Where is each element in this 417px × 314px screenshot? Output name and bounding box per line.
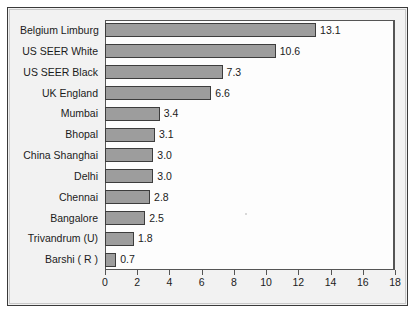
bar xyxy=(105,190,150,204)
bar-track: 2.5 xyxy=(105,207,396,228)
bar-value-label: 1.8 xyxy=(138,233,153,244)
bar-row: UK England6.6 xyxy=(20,82,396,103)
bar-track: 1.8 xyxy=(105,228,396,249)
bar-track: 3.0 xyxy=(105,145,396,166)
x-tick-label: 2 xyxy=(134,277,140,288)
bar-value-label: 7.3 xyxy=(227,67,242,78)
bar xyxy=(105,23,316,37)
bar-track: 3.1 xyxy=(105,124,396,145)
x-tick-label: 14 xyxy=(325,277,337,288)
bar-row: Delhi3.0 xyxy=(20,166,396,187)
bar-track: 2.8 xyxy=(105,187,396,208)
bar-value-label: 3.0 xyxy=(157,150,172,161)
category-label: Trivandrum (U) xyxy=(20,233,105,244)
category-label: Bangalore xyxy=(20,213,105,224)
x-tick xyxy=(234,270,235,275)
bar-value-label: 3.0 xyxy=(157,171,172,182)
x-tick xyxy=(169,270,170,275)
category-label: Barshi ( R ) xyxy=(20,254,105,265)
bar xyxy=(105,148,153,162)
x-tick xyxy=(395,270,396,275)
bar-value-label: 2.8 xyxy=(154,192,169,203)
bar-row: Barshi ( R )0.7 xyxy=(20,249,396,270)
bar-row: US SEER White10.6 xyxy=(20,41,396,62)
category-label: Mumbai xyxy=(20,108,105,119)
category-label: UK England xyxy=(20,88,105,99)
bar xyxy=(105,211,145,225)
bar-track: 7.3 xyxy=(105,62,396,83)
bar-row: Trivandrum (U)1.8 xyxy=(20,228,396,249)
x-axis-ticks: 024681012141618 xyxy=(105,270,395,294)
bar-row: China Shanghai3.0 xyxy=(20,145,396,166)
bar-track: 3.4 xyxy=(105,103,396,124)
x-tick-label: 8 xyxy=(231,277,237,288)
x-tick xyxy=(202,270,203,275)
bar-track: 3.0 xyxy=(105,166,396,187)
x-tick-label: 10 xyxy=(260,277,272,288)
category-label: China Shanghai xyxy=(20,150,105,161)
scan-artifact xyxy=(245,213,247,215)
bar xyxy=(105,107,160,121)
bar-value-label: 10.6 xyxy=(280,46,300,57)
x-tick-label: 18 xyxy=(389,277,401,288)
x-tick xyxy=(137,270,138,275)
x-tick-label: 16 xyxy=(357,277,369,288)
bar xyxy=(105,169,153,183)
bar xyxy=(105,44,276,58)
x-tick xyxy=(105,270,106,275)
category-label: US SEER Black xyxy=(20,67,105,78)
x-tick xyxy=(266,270,267,275)
bar-row: US SEER Black7.3 xyxy=(20,62,396,83)
bar-track: 0.7 xyxy=(105,249,396,270)
bar-value-label: 0.7 xyxy=(120,254,135,265)
x-tick-label: 6 xyxy=(199,277,205,288)
bar xyxy=(105,65,223,79)
bar xyxy=(105,128,155,142)
chart-outer-panel: Belgium Limburg13.1US SEER White10.6US S… xyxy=(7,7,408,306)
bar-track: 10.6 xyxy=(105,41,396,62)
x-tick xyxy=(363,270,364,275)
bar xyxy=(105,232,134,246)
category-label: Chennai xyxy=(20,192,105,203)
x-tick xyxy=(298,270,299,275)
category-label: Belgium Limburg xyxy=(20,25,105,36)
bar-value-label: 6.6 xyxy=(215,88,230,99)
x-tick-label: 12 xyxy=(292,277,304,288)
bar-row: Belgium Limburg13.1 xyxy=(20,20,396,41)
bar-row: Bhopal3.1 xyxy=(20,124,396,145)
bar xyxy=(105,86,211,100)
bar-track: 6.6 xyxy=(105,82,396,103)
bar-value-label: 3.1 xyxy=(159,129,174,140)
x-tick-label: 4 xyxy=(167,277,173,288)
category-label: Bhopal xyxy=(20,129,105,140)
bar-track: 13.1 xyxy=(105,20,396,41)
x-tick-label: 0 xyxy=(102,277,108,288)
bar-row: Mumbai3.4 xyxy=(20,103,396,124)
bar-rows: Belgium Limburg13.1US SEER White10.6US S… xyxy=(20,20,396,270)
chart-screenshot: Belgium Limburg13.1US SEER White10.6US S… xyxy=(0,0,417,314)
category-label: Delhi xyxy=(20,171,105,182)
bar-row: Bangalore2.5 xyxy=(20,207,396,228)
bar-row: Chennai2.8 xyxy=(20,187,396,208)
bar-value-label: 13.1 xyxy=(320,25,340,36)
category-label: US SEER White xyxy=(20,46,105,57)
bar xyxy=(105,253,116,267)
x-tick xyxy=(331,270,332,275)
bar-value-label: 3.4 xyxy=(164,108,179,119)
bar-value-label: 2.5 xyxy=(149,213,164,224)
